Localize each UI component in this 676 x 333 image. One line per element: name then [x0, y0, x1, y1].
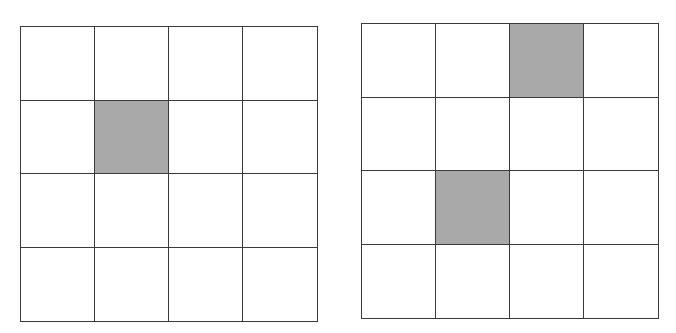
grid-cell — [584, 245, 658, 319]
shaded-cell — [95, 101, 169, 175]
grid-cell — [584, 24, 658, 98]
grid-cell — [510, 171, 584, 245]
grid-cell — [21, 174, 95, 248]
grid-cell — [243, 101, 317, 175]
grid-cell — [169, 101, 243, 175]
grid-cell — [243, 248, 317, 322]
grid-cell — [584, 98, 658, 172]
grid-cell — [243, 174, 317, 248]
grid-cell — [362, 245, 436, 319]
shaded-cell — [436, 171, 510, 245]
grid-cell — [584, 171, 658, 245]
grid-cell — [95, 248, 169, 322]
grid-cell — [95, 27, 169, 101]
grid-cell — [362, 171, 436, 245]
grid-cell — [510, 245, 584, 319]
grid-cell — [169, 248, 243, 322]
shaded-cell — [510, 24, 584, 98]
grid-cell — [169, 27, 243, 101]
grid-cell — [362, 98, 436, 172]
grid-cell — [243, 27, 317, 101]
grid-cell — [436, 24, 510, 98]
grid-cell — [510, 98, 584, 172]
grid-cell — [21, 27, 95, 101]
grid-cell — [436, 98, 510, 172]
left-grid — [20, 26, 318, 322]
grid-cell — [95, 174, 169, 248]
grid-cell — [362, 24, 436, 98]
grid-cell — [436, 245, 510, 319]
grid-cell — [169, 174, 243, 248]
grid-cell — [21, 101, 95, 175]
grid-cell — [21, 248, 95, 322]
right-grid — [361, 23, 659, 319]
